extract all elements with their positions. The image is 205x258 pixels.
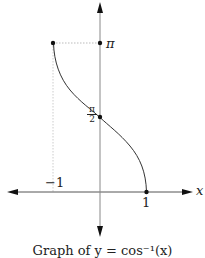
chart-caption: Graph of y = cos⁻¹(x) bbox=[0, 243, 205, 258]
x-axis-label: x bbox=[196, 184, 203, 197]
point-one-zero bbox=[144, 190, 148, 194]
y-axis-top-arrow-icon bbox=[97, 2, 103, 13]
point-neg-one-pi bbox=[51, 41, 55, 45]
point-zero-half-pi bbox=[98, 115, 102, 119]
x-axis-right-arrow-icon bbox=[182, 189, 193, 195]
pi-label: π bbox=[106, 37, 115, 50]
point-zero-pi bbox=[98, 41, 102, 45]
neg-one-label: −1 bbox=[45, 176, 64, 189]
half-pi-denominator: 2 bbox=[87, 115, 97, 124]
half-pi-label: π 2 bbox=[87, 105, 97, 124]
y-axis-bottom-arrow-icon bbox=[97, 226, 103, 237]
one-label: 1 bbox=[142, 196, 150, 209]
x-axis-left-arrow-icon bbox=[7, 189, 18, 195]
